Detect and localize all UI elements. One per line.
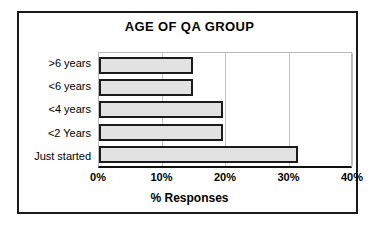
x-axis-tick-label: 20% [214,171,236,183]
bar-row [99,146,351,163]
x-axis-tick-labels: 0%10%20%30%40% [98,171,352,187]
y-axis-label: <2 Years [19,125,95,142]
bar-row [99,101,351,118]
y-axis-label: <4 years [19,101,95,118]
plot-area [98,52,352,168]
bar-just-started [99,146,298,163]
bar-series [99,53,351,166]
bar-row [99,79,351,96]
x-axis-tick-label: 30% [277,171,299,183]
x-axis-tick-label: 10% [150,171,172,183]
bar-2-years [99,124,223,141]
y-axis-category-labels: >6 years <6 years <4 years <2 Years Just… [19,52,95,168]
gridline [352,53,353,166]
x-axis-tick-label: 40% [341,171,363,183]
bar-6-years [99,57,193,74]
bar-row [99,124,351,141]
x-axis-title: % Responses [19,191,360,205]
y-axis-label: >6 years [19,55,95,72]
chart-title: AGE OF QA GROUP [19,19,360,34]
x-axis-tick-label: 0% [90,171,106,183]
bar-row [99,57,351,74]
bar-4-years [99,101,223,118]
bar-6-years [99,79,193,96]
chart-frame: AGE OF QA GROUP >6 years <6 years <4 yea… [17,11,358,214]
y-axis-label: <6 years [19,78,95,95]
y-axis-label: Just started [19,148,95,165]
